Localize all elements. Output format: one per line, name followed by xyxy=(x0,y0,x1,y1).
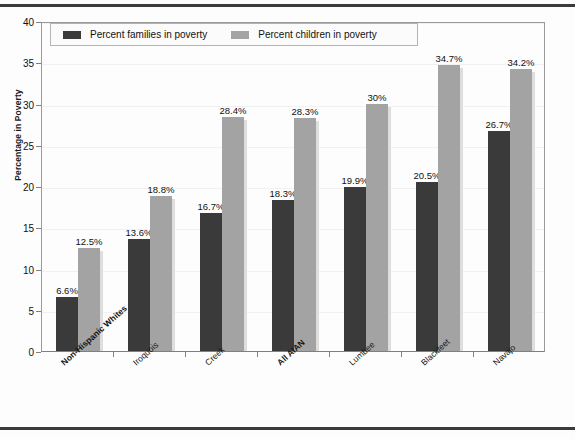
x-axis-tick-mark xyxy=(473,352,474,357)
legend-swatch-families-icon xyxy=(63,31,81,39)
bar-value-label: 6.6% xyxy=(56,285,78,296)
x-axis-tick-mark xyxy=(401,352,402,357)
legend-swatch-children-icon xyxy=(231,31,249,39)
bar-families xyxy=(272,200,294,351)
plot-area: 6.6%12.5%13.6%18.8%16.7%28.4%18.3%28.3%1… xyxy=(41,22,545,352)
bar-shadow xyxy=(172,199,175,351)
bar-value-label: 12.5% xyxy=(76,236,103,247)
gridline xyxy=(42,64,544,65)
bar-value-label: 28.3% xyxy=(292,106,319,117)
bar-children xyxy=(366,104,388,352)
bar-children xyxy=(294,118,316,351)
y-axis-title: Percentage in Poverty xyxy=(13,65,23,205)
bar-families xyxy=(128,239,150,351)
y-axis-tick-mark xyxy=(36,311,41,312)
bar-chart-figure: 6.6%12.5%13.6%18.8%16.7%28.4%18.3%28.3%1… xyxy=(0,8,575,426)
y-axis-tick-mark xyxy=(36,105,41,106)
bar-children xyxy=(438,65,460,351)
bar-value-label: 18.3% xyxy=(270,188,297,199)
y-axis-tick-mark xyxy=(36,228,41,229)
bar-shadow xyxy=(316,121,319,351)
y-axis-tick-label: 0 xyxy=(4,347,34,358)
bar-value-label: 16.7% xyxy=(198,201,225,212)
x-axis-tick-mark xyxy=(113,352,114,357)
bar-shadow xyxy=(388,107,391,352)
bar-value-label: 34.2% xyxy=(508,57,535,68)
legend-item-children: Percent children in poverty xyxy=(231,29,376,40)
y-axis-tick-mark xyxy=(36,22,41,23)
page-rule-bottom xyxy=(0,427,575,430)
x-axis-tick-mark xyxy=(257,352,258,357)
bar-children xyxy=(510,69,532,351)
bar-children xyxy=(150,196,172,351)
bar-shadow xyxy=(460,68,463,351)
bar-value-label: 34.7% xyxy=(436,53,463,64)
y-axis-tick-mark xyxy=(36,63,41,64)
y-axis-tick-label: 15 xyxy=(4,223,34,234)
bar-families xyxy=(200,213,222,351)
legend-item-families: Percent families in poverty xyxy=(63,29,207,40)
bar-value-label: 19.9% xyxy=(342,175,369,186)
x-axis-tick-mark xyxy=(329,352,330,357)
y-axis-tick-label: 5 xyxy=(4,305,34,316)
legend-label-children: Percent children in poverty xyxy=(258,29,376,40)
y-axis-tick-mark xyxy=(36,187,41,188)
y-axis-tick-label: 10 xyxy=(4,264,34,275)
bar-value-label: 30% xyxy=(367,92,386,103)
y-axis-tick-mark xyxy=(36,352,41,353)
bar-families xyxy=(416,182,438,351)
bar-families xyxy=(56,297,78,351)
bar-families xyxy=(344,187,366,351)
bar-value-label: 26.7% xyxy=(486,119,513,130)
y-axis-tick-mark xyxy=(36,146,41,147)
bar-shadow xyxy=(532,72,535,351)
legend-label-families: Percent families in poverty xyxy=(90,29,207,40)
bar-value-label: 28.4% xyxy=(220,105,247,116)
y-axis-tick-mark xyxy=(36,270,41,271)
bar-value-label: 18.8% xyxy=(148,184,175,195)
x-axis-tick-mark xyxy=(185,352,186,357)
bar-value-label: 13.6% xyxy=(126,227,153,238)
page-rule-top xyxy=(0,4,575,7)
bar-value-label: 20.5% xyxy=(414,170,441,181)
chart-legend: Percent families in poverty Percent chil… xyxy=(50,23,418,46)
gridline xyxy=(42,147,544,148)
bar-families xyxy=(488,131,510,351)
bar-children xyxy=(222,117,244,351)
bar-shadow xyxy=(244,120,247,351)
y-axis-tick-label: 40 xyxy=(4,17,34,28)
